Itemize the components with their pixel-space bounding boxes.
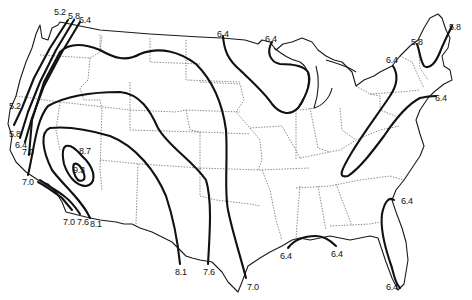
contour-label: 6.4 bbox=[79, 16, 91, 25]
contour-label: 6.4 bbox=[435, 94, 447, 103]
contour-label: 6.4 bbox=[217, 30, 229, 39]
contour-label: 8.1 bbox=[175, 268, 187, 277]
contour-label: 6.4 bbox=[265, 35, 277, 44]
contour-label: 5.8 bbox=[449, 23, 461, 32]
contour-label: 7.6 bbox=[203, 268, 215, 277]
contour-label: 9.3 bbox=[73, 166, 85, 175]
great-lakes-outline bbox=[274, 48, 356, 110]
contour-label: 6.4 bbox=[386, 56, 398, 65]
contour-label: 5.8 bbox=[9, 130, 21, 139]
contour-label: 6.4 bbox=[331, 250, 343, 259]
contour-7-6-main bbox=[28, 92, 210, 264]
contour-label: 7.0 bbox=[22, 148, 34, 157]
contour-label: 5.2 bbox=[9, 102, 21, 111]
contour-label: 5.8 bbox=[411, 38, 423, 47]
contour-6-4-north bbox=[223, 36, 309, 113]
contour-6-4-gulf bbox=[288, 236, 336, 248]
contour-label: 7.6 bbox=[77, 218, 89, 227]
contour-label: 7.0 bbox=[247, 283, 259, 292]
contour-label: 6.4 bbox=[401, 197, 413, 206]
contour-6-4-appalachian bbox=[342, 66, 436, 176]
contour-label: 8.1 bbox=[90, 220, 102, 229]
contour-label: 6.4 bbox=[386, 283, 398, 292]
contour-label: 6.4 bbox=[280, 252, 292, 261]
us-contour-map bbox=[0, 0, 472, 300]
contour-label: 8.7 bbox=[79, 147, 91, 156]
contour-label: 5.2 bbox=[54, 8, 66, 17]
contour-label: 7.0 bbox=[63, 218, 75, 227]
contour-7-0-main bbox=[29, 45, 246, 278]
contour-label: 7.0 bbox=[22, 178, 34, 187]
